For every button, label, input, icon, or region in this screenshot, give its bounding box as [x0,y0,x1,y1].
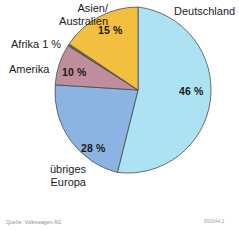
pie-value-uebriges-europa: 28 % [81,142,105,154]
pie-label-deutschland: Deutschland [174,5,235,18]
pie-value-deutschland: 46 % [179,85,203,97]
pie-chart-figure: Deutschland Asien/ Australien Afrika 1 %… [0,0,239,231]
pie-label-uebriges-europa: übriges Europa [26,163,86,188]
pie-value-amerika: 10 % [62,66,86,78]
pie-label-amerika: Amerika [9,63,49,76]
pie-value-asien-australien: 15 % [98,24,122,36]
pie-label-afrika: Afrika 1 % [11,38,61,51]
source-note: Quelle: Volkswagen AG [6,219,61,225]
pie-label-asien-line1: Asien/ [30,2,108,15]
pie-label-europa-line1: übriges [26,163,86,176]
pie-label-asien-australien: Asien/ Australien [30,2,108,27]
figure-code: 892044 2 [204,219,224,224]
pie-label-asien-line2: Australien [30,15,108,28]
pie-label-europa-line2: Europa [26,176,86,189]
